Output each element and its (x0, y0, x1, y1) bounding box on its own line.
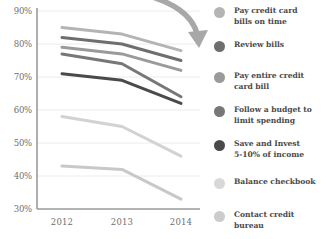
legend-item-label: Contact credit bureau (234, 210, 294, 231)
x-tick-label: 2013 (111, 217, 133, 227)
legend-color-swatch-icon (214, 106, 225, 117)
x-axis-ticks: 2012 2013 2014 (51, 217, 192, 227)
legend-item-label: Review bills (234, 40, 284, 51)
series-line (62, 166, 181, 199)
legend-color-swatch-icon (214, 72, 225, 83)
legend-item-label: Pay entire credit card bill (234, 71, 304, 92)
chart-legend: Pay credit card bills on time Review bil… (214, 0, 331, 239)
legend-item-label: Save and Invest 5-10% of income (234, 139, 304, 160)
y-tick-label: 30% (14, 204, 32, 214)
legend-item-label: Pay credit card bills on time (234, 6, 297, 27)
legend-item-label: Follow a budget to limit spending (234, 105, 312, 126)
legend-item-save-and-invest[interactable]: Save and Invest 5-10% of income (214, 139, 304, 160)
y-tick-label: 40% (14, 171, 32, 181)
series-line (62, 117, 181, 157)
legend-item-pay-entire-credit-card-bill[interactable]: Pay entire credit card bill (214, 71, 304, 92)
legend-color-swatch-icon (214, 211, 225, 222)
legend-color-swatch-icon (214, 178, 225, 189)
y-tick-label: 80% (14, 39, 32, 49)
x-tick-label: 2014 (170, 217, 192, 227)
series-line (62, 47, 181, 70)
legend-color-swatch-icon (214, 7, 225, 18)
series-line (62, 74, 181, 104)
x-tick-label: 2012 (51, 217, 73, 227)
y-tick-label: 60% (14, 105, 32, 115)
legend-item-label: Balance checkbook (234, 177, 315, 188)
series-lines (62, 28, 181, 200)
chart-screenshot: 90% 80% 70% 60% 50% 40% 30% 2012 2013 20… (0, 0, 331, 239)
y-tick-label: 90% (14, 6, 32, 16)
legend-color-swatch-icon (214, 41, 225, 52)
chart-canvas: 90% 80% 70% 60% 50% 40% 30% 2012 2013 20… (0, 0, 212, 239)
legend-item-balance-checkbook[interactable]: Balance checkbook (214, 177, 315, 189)
legend-color-swatch-icon (214, 140, 225, 151)
legend-item-contact-credit-bureau[interactable]: Contact credit bureau (214, 210, 294, 231)
y-axis-ticks: 90% 80% 70% 60% 50% 40% 30% (14, 6, 32, 214)
y-tick-label: 70% (14, 72, 32, 82)
line-chart: 90% 80% 70% 60% 50% 40% 30% 2012 2013 20… (0, 0, 212, 239)
legend-item-review-bills[interactable]: Review bills (214, 40, 284, 52)
legend-item-follow-a-budget-to-limit-spending[interactable]: Follow a budget to limit spending (214, 105, 312, 126)
y-tick-label: 50% (14, 138, 32, 148)
downward-trend-arrow-icon (112, 0, 208, 48)
legend-item-pay-credit-card-bills-on-time[interactable]: Pay credit card bills on time (214, 6, 297, 27)
